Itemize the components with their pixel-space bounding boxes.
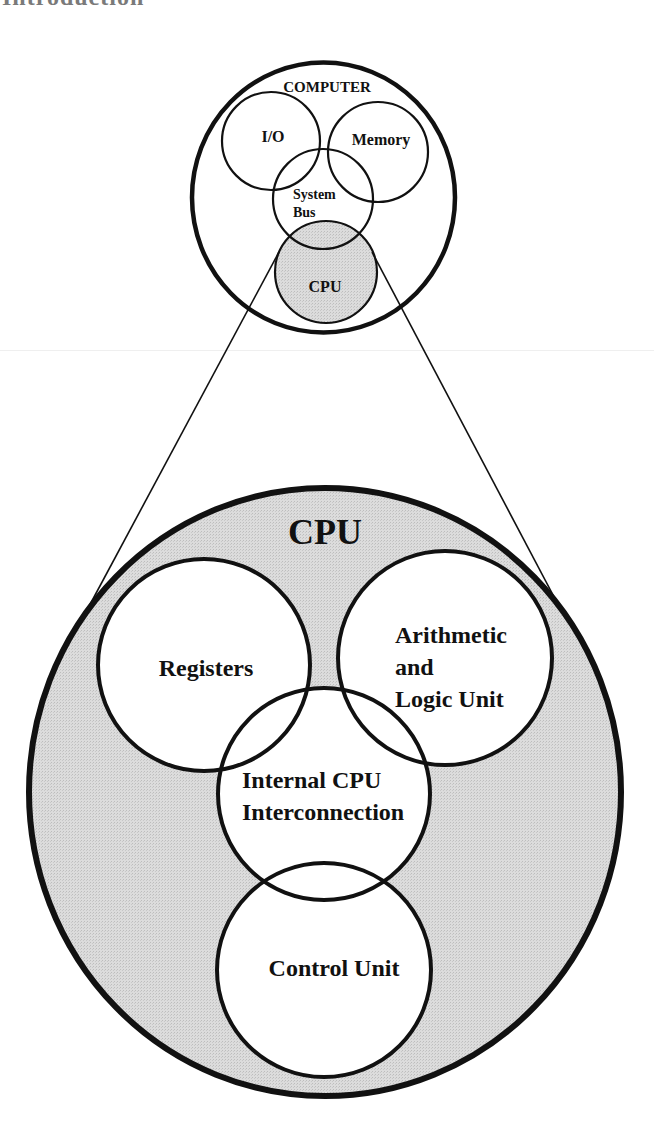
cpu-diagram: CPU Registers Arithmetic and Logic Unit … xyxy=(29,488,621,1096)
interconnect-label-line1: Internal CPU xyxy=(242,767,381,793)
system-bus-label-line2: Bus xyxy=(293,205,316,220)
registers-label: Registers xyxy=(159,655,254,681)
computer-diagram: COMPUTER I/O Memory System Bus CPU xyxy=(192,63,455,333)
alu-label-line1: Arithmetic xyxy=(395,622,507,648)
system-bus-label-line1: System xyxy=(293,187,336,202)
memory-label: Memory xyxy=(352,131,411,149)
alu-label-line3: Logic Unit xyxy=(395,686,504,712)
interconnect-label-line2: Interconnection xyxy=(242,799,404,825)
computer-title-label: COMPUTER xyxy=(283,79,371,95)
io-label: I/O xyxy=(261,128,284,145)
alu-label-line2: and xyxy=(395,654,434,680)
cpu-title-label: CPU xyxy=(288,512,362,552)
computer-cpu-structure-diagram: COMPUTER I/O Memory System Bus CPU CPU R… xyxy=(0,0,654,1148)
small-cpu-label: CPU xyxy=(309,278,342,295)
control-unit-label: Control Unit xyxy=(269,955,400,981)
